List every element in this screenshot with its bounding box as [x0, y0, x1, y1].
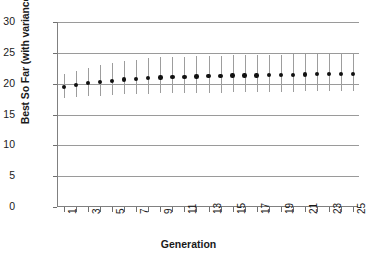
data-point [279, 73, 283, 77]
data-point [62, 85, 66, 89]
x-tick-mark [281, 207, 282, 212]
x-tick-mark [136, 207, 137, 212]
data-point [267, 73, 271, 77]
x-tick-mark [353, 207, 354, 212]
x-tick-label: 7 [139, 208, 150, 214]
gridline [58, 115, 359, 116]
data-point [74, 83, 78, 87]
x-tick-label: 13 [212, 203, 223, 214]
y-tick-label: 0 [0, 200, 15, 212]
y-axis-title: Best So Far (with variance bars) [19, 0, 31, 141]
data-point [351, 72, 355, 76]
data-point [315, 72, 319, 76]
y-tick-label: 15 [0, 108, 15, 120]
y-tick-label: 5 [0, 169, 15, 181]
x-tick-mark [160, 207, 161, 212]
x-tick-label: 23 [332, 203, 343, 214]
y-tick-label: 30 [0, 15, 15, 27]
x-tick-mark [257, 207, 258, 212]
plot-area [57, 22, 358, 207]
x-tick-label: 19 [284, 203, 295, 214]
x-tick-label: 15 [236, 203, 247, 214]
data-point [110, 79, 114, 83]
x-tick-mark [88, 207, 89, 212]
x-tick-label: 17 [260, 203, 271, 214]
x-tick-mark [329, 207, 330, 212]
gridline [58, 53, 359, 54]
data-point [242, 73, 246, 77]
x-tick-label: 25 [356, 203, 367, 214]
data-point [182, 75, 186, 79]
data-point [122, 77, 126, 81]
data-point [206, 74, 210, 78]
data-point [339, 72, 343, 76]
x-tick-label: 21 [308, 203, 319, 214]
data-point [170, 75, 174, 79]
gridline [58, 176, 359, 177]
y-tick-label: 25 [0, 46, 15, 58]
data-point [303, 72, 307, 76]
data-point [134, 77, 138, 81]
chart-figure: Best So Far (with variance bars) 0510152… [0, 0, 377, 262]
data-point [158, 75, 162, 79]
x-tick-label: 9 [163, 208, 174, 214]
data-point [218, 74, 222, 78]
gridline [58, 145, 359, 146]
x-tick-label: 11 [187, 204, 198, 214]
x-tick-mark [305, 207, 306, 212]
x-tick-mark [112, 207, 113, 212]
x-tick-label: 1 [67, 208, 78, 214]
y-tick-label: 10 [0, 138, 15, 150]
y-tick-mark [53, 207, 57, 208]
data-point [230, 73, 234, 77]
x-axis-title: Generation [0, 238, 377, 250]
x-tick-mark [209, 207, 210, 212]
data-point [194, 74, 198, 78]
x-tick-mark [233, 207, 234, 212]
data-point [254, 73, 258, 77]
y-tick-label: 20 [0, 77, 15, 89]
x-tick-label: 5 [115, 208, 126, 214]
data-point [327, 72, 331, 76]
data-point [291, 73, 295, 77]
x-tick-mark [64, 207, 65, 212]
gridline [58, 22, 359, 23]
data-point [146, 76, 150, 80]
x-tick-label: 3 [91, 208, 102, 214]
x-tick-mark [184, 207, 185, 212]
